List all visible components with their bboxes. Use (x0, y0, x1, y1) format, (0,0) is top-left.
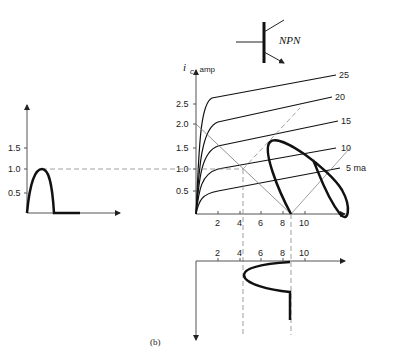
svg-text:15: 15 (341, 116, 351, 126)
svg-text:10: 10 (299, 218, 309, 228)
svg-text:10: 10 (299, 248, 309, 258)
input-plot: 1.5 1.0 0.5 (8, 105, 120, 213)
output-waveform (244, 262, 290, 320)
svg-text:6: 6 (258, 218, 263, 228)
svg-text:0.5: 0.5 (8, 188, 21, 198)
npn-load-line-figure: NPN i c , amp 2.5 2.0 1.5 1.0 0.5 2 4 (0, 0, 398, 350)
svg-text:0.5: 0.5 (176, 186, 189, 196)
svg-text:8: 8 (280, 248, 285, 258)
svg-text:2.0: 2.0 (176, 119, 189, 129)
svg-text:5 ma: 5 ma (346, 163, 366, 173)
figure-caption: (b) (150, 337, 161, 347)
svg-text:25: 25 (339, 70, 349, 80)
svg-text:6: 6 (258, 248, 263, 258)
svg-text:8: 8 (280, 218, 285, 228)
svg-text:4: 4 (237, 218, 242, 228)
svg-text:20: 20 (335, 92, 345, 102)
output-plot: 2 4 6 8 10 (196, 248, 345, 340)
svg-text:2: 2 (215, 248, 220, 258)
npn-label: NPN (278, 34, 301, 46)
svg-text:2.5: 2.5 (176, 99, 189, 109)
operating-trajectory (268, 140, 348, 217)
svg-text:4: 4 (237, 248, 242, 258)
svg-text:1.0: 1.0 (8, 164, 21, 174)
svg-text:2: 2 (215, 218, 220, 228)
y-axis-label: i (183, 61, 186, 73)
svg-text:c: c (190, 67, 194, 76)
svg-text:, amp: , amp (195, 65, 216, 74)
svg-text:1.5: 1.5 (176, 143, 189, 153)
svg-text:1.5: 1.5 (8, 143, 21, 153)
main-plot: i c , amp 2.5 2.0 1.5 1.0 0.5 2 4 6 8 10 (176, 61, 366, 228)
input-pulse (27, 169, 80, 213)
npn-transistor-symbol: NPN (236, 20, 301, 63)
